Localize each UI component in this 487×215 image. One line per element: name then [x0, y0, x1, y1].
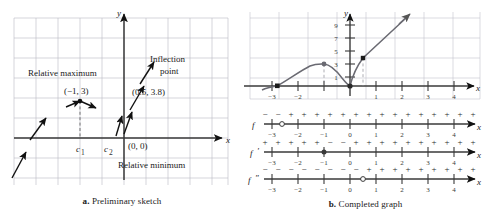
inflection-point-marker	[361, 56, 365, 60]
sign-fp-15: +	[457, 137, 462, 147]
x-tick-label-4: 4	[452, 93, 456, 101]
sign-fpp-5: −	[327, 164, 332, 174]
sign-fp-5: −	[327, 137, 332, 147]
curve-right-branch	[350, 18, 406, 86]
sign-chart-f-double-prime-label: f	[248, 175, 252, 185]
sign-fpp-tick-0: 0	[348, 186, 352, 192]
panel-a-y-axis-label: y	[116, 8, 121, 18]
sign-fp-0: +	[262, 137, 267, 147]
sign-fpp-9: +	[379, 164, 384, 174]
sign-fpp-tick-neg2: −2	[294, 186, 302, 192]
sign-fp-tick-1: 1	[374, 159, 378, 167]
sign-fpp-16: +	[470, 164, 475, 174]
sign-f-9: +	[379, 109, 384, 119]
sign-fpp-14: +	[444, 164, 449, 174]
sign-fpp-11: +	[405, 164, 410, 174]
panel-a-caption-prefix: a.	[83, 196, 90, 206]
x-tick-label-neg2: −2	[294, 93, 302, 101]
sign-fp-tick-2: 2	[400, 159, 404, 167]
sign-fp-12: +	[418, 137, 423, 147]
sign-f-0: −	[262, 109, 267, 119]
relative-minimum-point-marker	[347, 83, 352, 88]
sign-fp-10: +	[392, 137, 397, 147]
sign-fpp-12: +	[418, 164, 423, 174]
sign-chart-f-label: f	[252, 120, 256, 130]
sign-f-2: +	[288, 109, 293, 119]
sign-chart-f-prime-label: f	[250, 148, 254, 158]
panel-b-y-axis-label: y	[343, 8, 348, 18]
sign-fp-tick-0: 0	[348, 159, 352, 167]
sign-fpp-2: −	[288, 164, 293, 174]
sign-chart-f-prime-zero-marker	[322, 150, 327, 155]
sign-f-11: +	[405, 109, 410, 119]
x-tick-label-3: 3	[426, 93, 430, 101]
panel-b-caption-prefix: b.	[329, 199, 336, 209]
relative-minimum-label: Relative minimum	[118, 160, 185, 170]
panel-a-caption: a. Preliminary sketch	[0, 196, 244, 206]
sign-fp-6: −	[340, 137, 345, 147]
sign-f-tick-3: 3	[426, 131, 430, 139]
sign-chart-f-zero-marker	[280, 122, 285, 127]
sign-chart-f-double-prime-mark: ″	[255, 173, 259, 183]
sign-fp-tick-4: 4	[452, 159, 456, 167]
sign-fpp-4: −	[314, 164, 319, 174]
sign-fp-7: +	[353, 137, 358, 147]
origin-point-label: (0, 0)	[128, 141, 148, 151]
panel-a-caption-text: Preliminary sketch	[92, 196, 162, 206]
sign-f-6: +	[340, 109, 345, 119]
sign-chart-f-prime-x-label: x	[476, 150, 481, 160]
sign-fpp-tick-4: 4	[452, 186, 456, 192]
sign-fp-16: +	[470, 137, 475, 147]
sign-fp-8: +	[366, 137, 371, 147]
sign-f-15: +	[457, 109, 462, 119]
sign-f-10: +	[392, 109, 397, 119]
completed-graph-svg: x y 9 7 5 3 1	[244, 0, 487, 192]
sign-f-1: −	[275, 109, 280, 119]
sign-fpp-tick-2: 2	[400, 186, 404, 192]
sign-chart-f-x-label: x	[476, 122, 481, 132]
inflection-point-coordinates-label: (0.5, 3.8)	[132, 87, 165, 97]
sign-fp-1: +	[275, 137, 280, 147]
sign-f-8: +	[366, 109, 371, 119]
inflection-label-line1: Inflection	[150, 54, 185, 64]
sign-chart-f-double-prime: f ″ −3 −2 −1 0 1 2 3	[248, 164, 481, 192]
sign-fp-tick-3: 3	[426, 159, 430, 167]
sign-fpp-tick-neg3: −3	[268, 186, 276, 192]
slope-arrow-5	[116, 116, 122, 136]
c1-subscript: 1	[81, 148, 85, 157]
sign-f-tick-4: 4	[452, 131, 456, 139]
panel-b-x-axis-label: x	[475, 83, 480, 93]
sign-f-13: +	[431, 109, 436, 119]
y-tick-label-5: 5	[334, 48, 338, 56]
sign-fp-9: +	[379, 137, 384, 147]
x-tick-label-1: 1	[374, 93, 378, 101]
panel-completed-graph: x y 9 7 5 3 1	[244, 0, 487, 215]
sign-fpp-tick-1: 1	[374, 186, 378, 192]
panel-b-caption-text: Completed graph	[339, 199, 403, 209]
axes	[14, 14, 222, 180]
slope-arrow-8	[140, 62, 154, 84]
sign-chart-f-double-prime-zero-marker	[361, 177, 366, 182]
y-tick-label-9: 9	[334, 22, 338, 30]
sign-fp-14: +	[444, 137, 449, 147]
figure-container: x y Relative maximum (−1, 3) Inflection	[0, 0, 487, 215]
sign-fp-3: +	[301, 137, 306, 147]
sign-fp-2: +	[288, 137, 293, 147]
relative-maximum-label: Relative maximum	[28, 68, 97, 78]
sign-f-7: +	[353, 109, 358, 119]
slope-arrow-4-right-of-max	[80, 101, 96, 108]
relative-maximum-point-marker	[322, 62, 327, 67]
y-tick-label-3: 3	[334, 61, 338, 69]
sign-chart-f-prime: f ′ −3 −2 −1 0 1 2 3	[250, 137, 481, 167]
sign-f-12: +	[418, 109, 423, 119]
sign-fpp-8: +	[366, 164, 371, 174]
y-tick-label-7: 7	[334, 35, 338, 43]
c2-label: c	[104, 144, 108, 154]
sign-fpp-0: −	[262, 164, 267, 174]
panel-b-caption: b. Completed graph	[244, 199, 487, 209]
sign-f-16: +	[470, 109, 475, 119]
sign-fpp-7: −	[353, 164, 358, 174]
panel-a-x-axis-label: x	[225, 135, 230, 145]
sign-chart-f-double-prime-x-label: x	[476, 177, 481, 187]
sign-chart-f: f −3 −2 −1 0 1 2 3 4	[252, 109, 481, 139]
